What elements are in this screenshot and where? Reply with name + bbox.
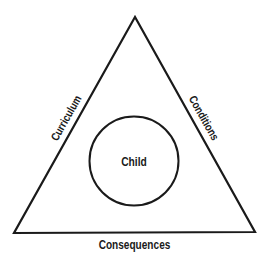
center-label: Child — [121, 155, 147, 168]
triangle-diagram: Child Curriculum Conditions Consequences — [0, 0, 269, 261]
side-label-bottom: Consequences — [99, 238, 171, 251]
triangle — [14, 17, 255, 233]
